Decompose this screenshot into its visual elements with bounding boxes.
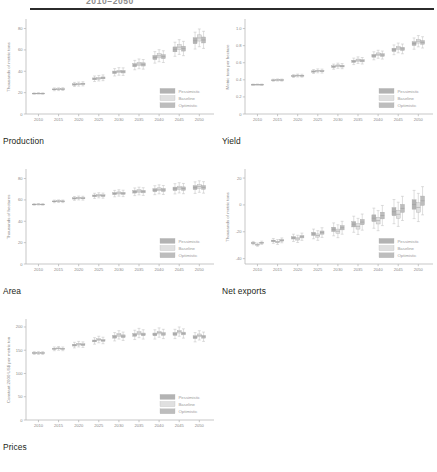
svg-text:2015: 2015	[273, 117, 283, 122]
svg-text:2040: 2040	[374, 267, 384, 272]
svg-text:2015: 2015	[273, 267, 283, 272]
chart-net-exports-svg: -40-20020Thousands of metric tons2010201…	[219, 166, 437, 284]
svg-text:40: 40	[18, 219, 23, 224]
chart-area-svg: 020406080Thousands of hectares2010201520…	[0, 166, 218, 284]
svg-text:Pessimistic: Pessimistic	[398, 239, 420, 244]
caption-net-exports: Net exports	[222, 286, 266, 296]
caption-area: Area	[3, 286, 21, 296]
svg-text:0: 0	[20, 112, 23, 117]
svg-text:200: 200	[16, 324, 24, 329]
svg-text:2045: 2045	[175, 267, 185, 272]
svg-text:20: 20	[18, 240, 23, 245]
svg-text:20: 20	[237, 176, 242, 181]
chart-production-svg: 020406080Thousands of metric tons2010201…	[0, 16, 218, 134]
svg-text:Pessimistic: Pessimistic	[179, 239, 201, 244]
svg-text:Pessimistic: Pessimistic	[179, 89, 201, 94]
svg-text:0: 0	[239, 202, 242, 207]
svg-text:2030: 2030	[114, 423, 124, 428]
svg-text:Thousands of metric tons: Thousands of metric tons	[6, 42, 11, 92]
svg-text:2020: 2020	[74, 423, 84, 428]
svg-text:2015: 2015	[54, 117, 64, 122]
svg-text:Baseline: Baseline	[398, 96, 415, 101]
svg-text:0: 0	[239, 112, 242, 117]
svg-text:Optimistic: Optimistic	[179, 409, 199, 414]
svg-text:2035: 2035	[353, 117, 363, 122]
svg-text:Optimistic: Optimistic	[398, 103, 418, 108]
svg-text:Baseline: Baseline	[179, 402, 196, 407]
svg-text:60: 60	[18, 47, 23, 52]
svg-text:2045: 2045	[394, 267, 404, 272]
svg-text:2045: 2045	[394, 117, 404, 122]
svg-text:2030: 2030	[333, 267, 343, 272]
svg-text:2025: 2025	[313, 267, 323, 272]
chart-prices-svg: 050100150200Constant 2000 US$ per metric…	[0, 316, 218, 440]
svg-text:2010: 2010	[34, 267, 44, 272]
svg-text:0.4: 0.4	[236, 77, 242, 82]
chart-net-exports: -40-20020Thousands of metric tons2010201…	[219, 166, 437, 284]
svg-text:-20: -20	[236, 229, 243, 234]
svg-text:0.2: 0.2	[236, 94, 242, 99]
svg-text:1.0: 1.0	[236, 26, 242, 31]
svg-text:0.8: 0.8	[236, 43, 242, 48]
svg-text:2040: 2040	[374, 117, 384, 122]
svg-text:60: 60	[18, 197, 23, 202]
svg-text:-40: -40	[236, 256, 243, 261]
svg-text:2040: 2040	[155, 267, 165, 272]
svg-text:2050: 2050	[195, 267, 205, 272]
svg-text:50: 50	[18, 394, 23, 399]
svg-text:2015: 2015	[54, 423, 64, 428]
svg-text:Optimistic: Optimistic	[179, 253, 199, 258]
chart-yield: 00.20.40.60.81.0Metric tons per hectare2…	[219, 16, 437, 134]
svg-text:2010: 2010	[253, 267, 263, 272]
svg-text:0.6: 0.6	[236, 60, 242, 65]
svg-text:Baseline: Baseline	[179, 246, 196, 251]
caption-production: Production	[3, 136, 44, 146]
svg-text:2035: 2035	[134, 267, 144, 272]
svg-text:Optimistic: Optimistic	[179, 103, 199, 108]
svg-text:Baseline: Baseline	[398, 246, 415, 251]
svg-text:2045: 2045	[175, 117, 185, 122]
svg-text:2040: 2040	[155, 117, 165, 122]
chart-prices: 050100150200Constant 2000 US$ per metric…	[0, 316, 218, 440]
svg-text:2010: 2010	[34, 117, 44, 122]
svg-text:2050: 2050	[414, 117, 424, 122]
svg-text:20: 20	[18, 90, 23, 95]
svg-text:2025: 2025	[313, 117, 323, 122]
svg-text:2030: 2030	[333, 117, 343, 122]
svg-text:2010: 2010	[253, 117, 263, 122]
svg-text:2050: 2050	[195, 117, 205, 122]
svg-text:0: 0	[20, 262, 23, 267]
svg-text:2025: 2025	[94, 117, 104, 122]
svg-text:2020: 2020	[293, 117, 303, 122]
figure-page: 2010–2050 020406080Thousands of metric t…	[0, 0, 437, 472]
svg-text:100: 100	[16, 371, 24, 376]
svg-text:2030: 2030	[114, 117, 124, 122]
svg-text:2025: 2025	[94, 267, 104, 272]
svg-text:80: 80	[18, 176, 23, 181]
svg-text:2035: 2035	[134, 117, 144, 122]
svg-text:2035: 2035	[134, 423, 144, 428]
svg-text:2040: 2040	[155, 423, 165, 428]
svg-text:40: 40	[18, 69, 23, 74]
svg-text:Thousands of hectares: Thousands of hectares	[6, 194, 11, 239]
svg-text:2010: 2010	[34, 423, 44, 428]
svg-text:Thousands of metric tons: Thousands of metric tons	[225, 192, 230, 242]
svg-text:2050: 2050	[195, 423, 205, 428]
svg-text:2045: 2045	[175, 423, 185, 428]
svg-text:150: 150	[16, 348, 24, 353]
svg-text:2030: 2030	[114, 267, 124, 272]
svg-text:2020: 2020	[74, 117, 84, 122]
svg-text:2035: 2035	[353, 267, 363, 272]
header-rule	[30, 8, 434, 10]
svg-text:2050: 2050	[414, 267, 424, 272]
chart-yield-svg: 00.20.40.60.81.0Metric tons per hectare2…	[219, 16, 437, 134]
svg-text:2025: 2025	[94, 423, 104, 428]
svg-text:80: 80	[18, 26, 23, 31]
svg-text:Metric tons per hectare: Metric tons per hectare	[225, 44, 230, 89]
header-title: 2010–2050	[86, 0, 134, 6]
svg-text:2020: 2020	[74, 267, 84, 272]
svg-text:2015: 2015	[54, 267, 64, 272]
svg-text:Pessimistic: Pessimistic	[398, 89, 420, 94]
chart-area: 020406080Thousands of hectares2010201520…	[0, 166, 218, 284]
svg-text:2020: 2020	[293, 267, 303, 272]
